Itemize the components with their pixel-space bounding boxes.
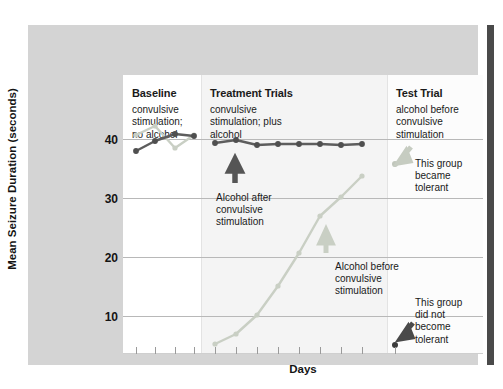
- annotation-did-not-become-tolerant: This group did not become tolerant: [415, 297, 485, 346]
- panel-subtitle-test: alcohol before convulsive stimulation: [396, 104, 488, 141]
- annotation-alcohol-before: Alcohol before convulsive stimulation: [335, 261, 430, 298]
- x-tick-10: [320, 347, 321, 354]
- x-tick-9: [299, 347, 300, 354]
- figure-card: Mean Seizure Duration (seconds) 40 30 20…: [28, 25, 478, 365]
- panel-subtitle-treatment: convulsive stimulation; plus alcohol: [210, 104, 335, 141]
- y-tick-10: 10: [72, 310, 118, 324]
- x-tick-6: [236, 347, 237, 354]
- panel-title-test: Test Trial: [396, 87, 488, 99]
- x-tick-3: [175, 347, 176, 354]
- x-tick-13: [395, 347, 396, 354]
- plot-panel: Baseline convulsive stimulation; no alco…: [123, 75, 483, 353]
- x-tick-4: [194, 347, 195, 354]
- annotation-became-tolerant: This group became tolerant: [415, 158, 485, 195]
- x-axis-line: [123, 353, 483, 354]
- x-tick-8: [278, 347, 279, 354]
- y-tick-30: 30: [72, 192, 118, 206]
- x-tick-12: [362, 347, 363, 354]
- y-tick-labels: 40 30 20 10: [68, 75, 118, 353]
- panel-subtitle-baseline: convulsive stimulation; no alcohol: [132, 104, 204, 141]
- gridline-20: [123, 257, 483, 258]
- x-tick-7: [257, 347, 258, 354]
- annotation-alcohol-after: Alcohol after convulsive stimulation: [216, 192, 311, 229]
- panel-header-treatment: Treatment Trials convulsive stimulation;…: [210, 87, 335, 141]
- figure-root: Mean Seizure Duration (seconds) 40 30 20…: [0, 0, 503, 389]
- panel-header-baseline: Baseline convulsive stimulation; no alco…: [132, 87, 204, 141]
- x-tick-5: [215, 347, 216, 354]
- y-tick-40: 40: [72, 133, 118, 147]
- y-axis-label: Mean Seizure Duration (seconds): [6, 29, 18, 329]
- x-axis-label: Days: [123, 363, 483, 375]
- page-edge-bar: [487, 25, 494, 365]
- panel-title-treatment: Treatment Trials: [210, 87, 335, 99]
- x-tick-2: [155, 347, 156, 354]
- x-tick-1: [136, 347, 137, 354]
- x-tick-11: [341, 347, 342, 354]
- panel-header-test: Test Trial alcohol before convulsive sti…: [396, 87, 488, 141]
- panel-divider-2: [387, 75, 388, 353]
- y-tick-20: 20: [72, 251, 118, 265]
- panel-title-baseline: Baseline: [132, 87, 204, 99]
